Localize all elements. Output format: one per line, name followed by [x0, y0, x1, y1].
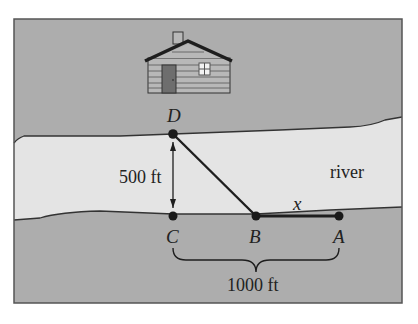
- label-x: x: [292, 193, 302, 214]
- label-distance: 1000 ft: [227, 275, 279, 295]
- door: [162, 65, 176, 93]
- point-A: [335, 212, 344, 221]
- label-width: 500 ft: [119, 167, 162, 187]
- label-C: C: [166, 226, 179, 247]
- label-A: A: [331, 226, 345, 247]
- label-D: D: [166, 105, 181, 126]
- label-river: river: [330, 162, 364, 182]
- point-C: [169, 212, 178, 221]
- window: [199, 63, 210, 75]
- river-diagram: D C B A x 500 ft river 1000 ft: [0, 0, 418, 324]
- label-B: B: [249, 226, 261, 247]
- point-D: [168, 129, 178, 139]
- point-B: [252, 212, 261, 221]
